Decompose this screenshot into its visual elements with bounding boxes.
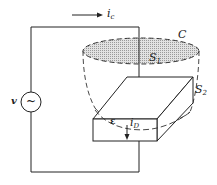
current-arrow-icon [72,13,103,18]
surface-s1-symbol: S [149,51,157,64]
source-voltage-label: v [11,96,17,106]
curve-label: C [178,29,186,40]
permittivity-label: ε [110,117,115,126]
surface-s2-symbol: S [195,83,203,96]
displacement-current-subscript: D [134,122,140,130]
surface-s1-label: S1 [149,52,161,65]
ac-source-symbol: ~ [26,95,36,107]
displacement-current-label: iD [130,117,139,130]
surface-s1-subscript: 1 [157,57,161,65]
surface-s2-subscript: 2 [203,89,207,97]
conduction-current-subscript: c [111,13,115,21]
surface-s1 [83,38,199,64]
conduction-current-label: ic [107,8,114,21]
capacitor-box [93,77,193,141]
surface-s2-label: S2 [195,84,207,97]
